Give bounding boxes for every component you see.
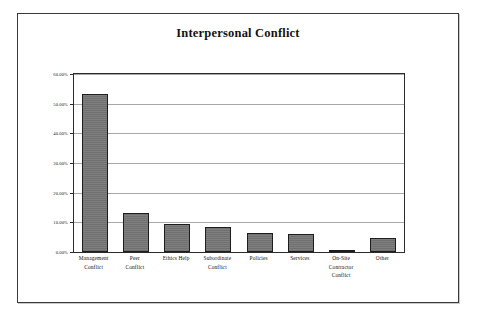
bar[interactable] — [247, 233, 273, 252]
x-axis-tick-label-line: Conflict — [73, 263, 114, 272]
x-axis-tick-label-line: Policies — [238, 254, 279, 263]
x-axis-tick-label: PeerConflict — [114, 254, 155, 271]
bar-slot — [198, 74, 239, 252]
bar-slot — [157, 74, 198, 252]
bar-slot — [363, 74, 404, 252]
y-axis-tick-label: 0.00% — [56, 250, 68, 255]
bar[interactable] — [329, 250, 355, 252]
x-axis-tick-labels: ManagementConflictPeerConflictEthics Hel… — [73, 253, 405, 301]
bar-slot — [280, 74, 321, 252]
x-axis-tick-label: SubordinateConflict — [197, 254, 238, 271]
x-axis-tick-label: ManagementConflict — [73, 254, 114, 271]
x-axis-tick-label-line: Ethics Help — [156, 254, 197, 263]
bar[interactable] — [288, 234, 314, 252]
bar-slot — [322, 74, 363, 252]
bar[interactable] — [164, 224, 190, 252]
bar[interactable] — [370, 238, 396, 252]
bar-slot — [239, 74, 280, 252]
x-axis-tick-label-line: Conflict — [197, 263, 238, 272]
bar-slot — [74, 74, 115, 252]
y-axis-tick-label: 10.00% — [53, 220, 68, 225]
bar[interactable] — [82, 94, 108, 252]
y-axis-tick-label: 20.00% — [53, 190, 68, 195]
screenshot-root: Interpersonal Conflict 60.00%50.00%40.00… — [0, 0, 477, 320]
x-axis-tick-label-line: Contractor — [321, 263, 362, 272]
x-axis-tick-label: Services — [279, 254, 320, 263]
chart-figure-frame: Interpersonal Conflict 60.00%50.00%40.00… — [17, 13, 459, 303]
y-axis-tick-label: 60.00% — [53, 72, 68, 77]
y-axis-tick-label: 50.00% — [53, 101, 68, 106]
y-axis-tick-label: 40.00% — [53, 131, 68, 136]
x-axis-tick-label: On-SiteContractorConflict — [321, 254, 362, 280]
plot-area: 60.00%50.00%40.00%30.00%20.00%10.00%0.00… — [73, 73, 405, 253]
x-axis-tick-label-line: Conflict — [321, 271, 362, 280]
x-axis-tick-label: Other — [362, 254, 403, 263]
x-axis-tick-label-line: Services — [279, 254, 320, 263]
x-axis-tick-label: Policies — [238, 254, 279, 263]
bar[interactable] — [205, 227, 231, 252]
x-axis-tick-label-line: Conflict — [114, 263, 155, 272]
x-axis-tick-label-line: On-Site — [321, 254, 362, 263]
x-axis-tick-label-line: Management — [73, 254, 114, 263]
chart-title: Interpersonal Conflict — [18, 26, 458, 41]
x-axis-tick-label-line: Subordinate — [197, 254, 238, 263]
bars-group — [74, 74, 404, 252]
x-axis-tick-label: Ethics Help — [156, 254, 197, 263]
x-axis-tick-label-line: Peer — [114, 254, 155, 263]
y-axis-tick-label: 30.00% — [53, 161, 68, 166]
bar-slot — [115, 74, 156, 252]
bar[interactable] — [123, 213, 149, 252]
x-axis-tick-label-line: Other — [362, 254, 403, 263]
